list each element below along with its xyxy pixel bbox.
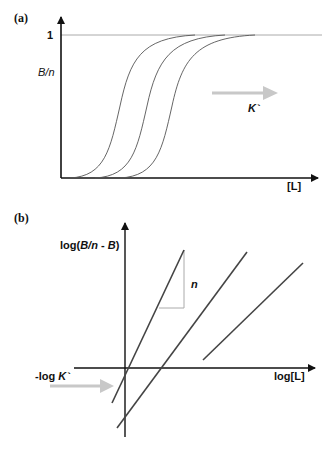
slope-label: n [191,278,198,290]
hill-line-3 [203,263,303,360]
hill-plot-figure: (a) 1 B/n [L] K` (b) log(B/n - B) log[L]… [0,0,335,449]
intercept-arrow-head [100,379,114,393]
panel-b: (b) log(B/n - B) log[L] n -log K` [14,211,315,437]
intercept-label: -log K` [35,370,71,382]
sigmoid-curve-2 [95,35,225,178]
x-axis-label: log[L] [274,370,305,382]
sigmoid-curve-3 [120,35,255,178]
hill-line-2 [117,252,247,428]
y-tick-one: 1 [47,29,53,41]
panel-a: (a) 1 B/n [L] K` [14,11,322,192]
panel-b-label: (b) [14,211,29,225]
x-axis-label: [L] [287,180,301,192]
sigmoid-curve-1 [70,35,195,178]
y-axis-label: B/n [38,66,55,78]
shift-arrow-head [263,86,278,100]
y-axis-label: log(B/n - B) [60,239,120,251]
panel-a-label: (a) [14,11,28,25]
k-label: K` [248,102,261,114]
hill-line-1 [112,250,184,403]
